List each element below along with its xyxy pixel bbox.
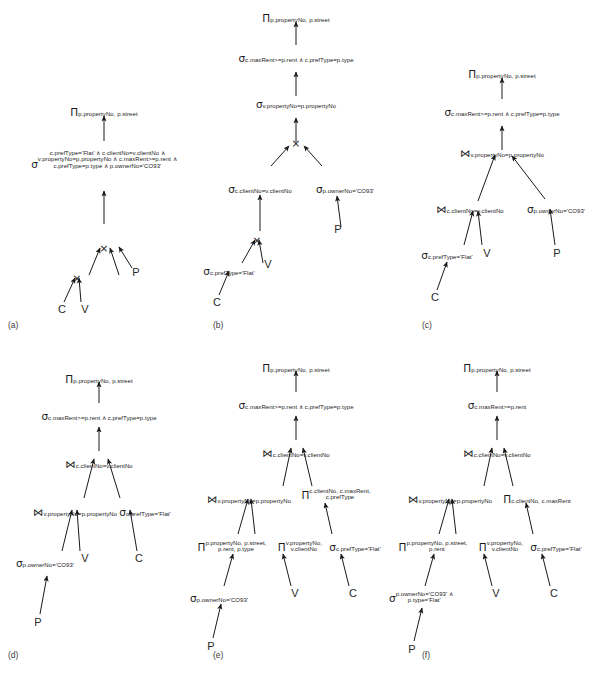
- select-symbol: σ: [444, 106, 451, 118]
- leaf-relation-viewing: V: [483, 247, 490, 259]
- leaf-relation-client: C: [349, 587, 357, 599]
- project-attributes: p.propertyNo, p.street: [476, 73, 535, 79]
- node-project-root: Πp.propertyNo, p.street: [70, 103, 137, 120]
- node-project-viewing: Πv.propertyNo,v.clientNo: [278, 538, 322, 555]
- node-product-upper: ×: [292, 134, 301, 151]
- node-project-property: Πp.propertyNo, p.street,p.rent: [399, 538, 468, 555]
- select-symbol: σ: [389, 592, 396, 604]
- select-symbol: σ: [119, 506, 126, 518]
- select-symbol: σ: [329, 541, 336, 553]
- leaf-relation-property: P: [132, 266, 139, 278]
- node-join-clientno: ⋈c.clientNo=v.clientNo: [262, 444, 330, 461]
- node-project-root: Πp.propertyNo, p.street: [468, 65, 535, 82]
- node-join-clientno: ⋈c.clientNo=v.clientNo: [463, 444, 531, 461]
- panel-label-b: (b): [213, 320, 223, 330]
- project-attributes: v.propertyNo,v.clientNo: [286, 540, 322, 553]
- leaf-relation-client: C: [431, 291, 439, 303]
- select-symbol: σ: [203, 265, 210, 277]
- node-join-clientno: ⋈c.clientNo=v.clientNo: [65, 455, 133, 472]
- project-attributes: p.propertyNo, p.street: [270, 17, 329, 23]
- select-condition: c.maxRent>=p.rent ∧ c.prefType=p.type: [451, 111, 559, 117]
- join-condition: v.propertyNo=p.propertyNo: [418, 498, 492, 504]
- project-symbol: Π: [399, 541, 407, 553]
- cartesian-product-symbol: ×: [253, 234, 262, 246]
- leaf-relation-viewing: V: [81, 552, 88, 564]
- select-symbol: σ: [530, 541, 537, 553]
- node-join-propertyno: ⋈v.propertyNo=p.propertyNo: [33, 503, 117, 520]
- node-product-lower: ×: [253, 231, 262, 248]
- leaf-relation-client: C: [550, 587, 558, 599]
- project-symbol: Π: [463, 362, 471, 374]
- select-condition: p.ownerNo='CO93': [197, 597, 248, 603]
- node-product-upper: ×: [100, 239, 109, 256]
- join-symbol: ⋈: [207, 493, 218, 505]
- node-select-preftype: σc.prefType='Flat': [530, 538, 582, 555]
- select-condition: c.prefType='Flat': [428, 254, 473, 260]
- select-symbol: σ: [421, 249, 428, 261]
- join-symbol: ⋈: [408, 493, 419, 505]
- leaf-relation-client: C: [135, 552, 143, 564]
- join-symbol: ⋈: [463, 447, 474, 459]
- node-select-preftype: σc.prefType='Flat': [329, 538, 381, 555]
- cartesian-product-symbol: ×: [73, 272, 82, 284]
- node-select-all: σc.prefType='Flat' ∧ c.clientNo=v.client…: [31, 150, 177, 171]
- project-symbol: Π: [262, 12, 270, 24]
- node-join-propertyno: ⋈v.propertyNo=p.propertyNo: [207, 490, 291, 507]
- select-symbol: σ: [228, 183, 235, 195]
- leaf-relation-property: P: [34, 616, 41, 628]
- join-condition: c.clientNo=v.clientNo: [76, 463, 133, 469]
- select-condition: c.prefType='Flat': [210, 270, 255, 276]
- select-symbol: σ: [31, 158, 38, 170]
- project-symbol: Π: [262, 362, 270, 374]
- join-condition: v.propertyNo=p.propertyNo: [470, 152, 544, 158]
- node-select-owner: σp.ownerNo='CO93': [527, 200, 585, 217]
- select-condition: c.prefType='Flat': [126, 511, 171, 517]
- select-condition: c.maxRent>=p.rent: [474, 404, 526, 410]
- panel-label-d: (d): [8, 650, 18, 660]
- select-condition: p.ownerNo='CO93': [534, 208, 585, 214]
- select-condition: v.propertyNo=p.propertyNo: [263, 103, 337, 109]
- join-symbol: ⋈: [33, 506, 44, 518]
- select-condition: p.ownerNo='CO93': [323, 188, 374, 194]
- select-symbol: σ: [238, 52, 245, 64]
- select-symbol: σ: [468, 399, 475, 411]
- node-select-propertyno: σv.propertyNo=p.propertyNo: [256, 95, 336, 112]
- node-join-propertyno: ⋈v.propertyNo=p.propertyNo: [460, 144, 544, 161]
- project-attributes: p.propertyNo, p.street: [270, 367, 329, 373]
- node-project-property: Πp.propertyNo, p.street,p.rent, p.type: [198, 538, 267, 555]
- leaf-relation-viewing: V: [492, 587, 499, 599]
- select-condition: p.ownerNo='CO93' ∧p.type='Flat': [396, 591, 453, 604]
- node-select-preftype: σc.prefType='Flat': [421, 246, 473, 263]
- select-condition: c.maxRent>=p.rent ∧ c.prefType=p.type: [245, 404, 353, 410]
- join-condition: c.clientNo=v.clientNo: [273, 452, 330, 458]
- leaf-relation-property: P: [408, 643, 415, 655]
- leaf-relation-property: P: [553, 247, 560, 259]
- leaf-relation-viewing: V: [291, 587, 298, 599]
- project-attributes: p.propertyNo, p.street: [78, 111, 137, 117]
- select-symbol: σ: [41, 410, 48, 422]
- node-project-client: Πc.clientNo, c.maxRent: [503, 490, 571, 507]
- node-select-rent-type: σc.maxRent>=p.rent ∧ c.prefType=p.type: [41, 407, 156, 424]
- node-join-propertyno: ⋈v.propertyNo=p.propertyNo: [408, 490, 492, 507]
- join-symbol: ⋈: [460, 147, 471, 159]
- node-select-preftype: σc.prefType='Flat': [203, 262, 255, 279]
- project-attributes: v.propertyNo,v.clientNo: [487, 540, 523, 553]
- select-symbol: σ: [256, 98, 263, 110]
- select-symbol: σ: [238, 399, 245, 411]
- node-project-root: Πp.propertyNo, p.street: [262, 359, 329, 376]
- project-symbol: Π: [70, 106, 78, 118]
- leaf-relation-viewing: V: [81, 303, 88, 315]
- project-symbol: Π: [468, 68, 476, 80]
- select-condition: c.prefType='Flat': [336, 546, 381, 552]
- node-select-rent-type: σc.maxRent>=p.rent ∧ c.prefType=p.type: [238, 49, 353, 66]
- node-select-owner: σp.ownerNo='CO93': [16, 554, 74, 571]
- select-condition: c.maxRent>=p.rent ∧ c.prefType=p.type: [48, 415, 156, 421]
- cartesian-product-symbol: ×: [292, 137, 301, 149]
- select-symbol: σ: [190, 592, 197, 604]
- project-attributes: p.propertyNo, p.street,p.rent, p.type: [205, 540, 266, 553]
- relational-algebra-figure: Πp.propertyNo, p.street σc.prefType='Fla…: [0, 0, 604, 675]
- project-attributes: p.propertyNo, p.street: [73, 378, 132, 384]
- node-project-root: Πp.propertyNo, p.street: [65, 370, 132, 387]
- node-select-preftype: σc.prefType='Flat': [119, 503, 171, 520]
- node-join-clientno: ⋈c.clientNo=v.clientNo: [436, 200, 504, 217]
